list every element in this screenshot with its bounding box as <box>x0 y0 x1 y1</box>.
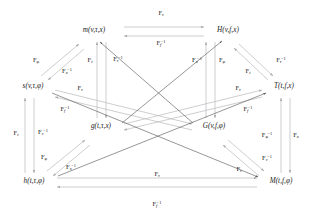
edge-label-upper-right-tau: Fτ−1 <box>276 57 285 65</box>
diagram-node-m: m(v,τ,x) <box>83 27 105 34</box>
diagram-node-T: T(t,f,x) <box>274 83 294 90</box>
edge-label-left-vert-v: Fv−1 <box>38 129 48 137</box>
diagram-arrow <box>41 44 79 76</box>
edge-label-mid-right-tau: Fτ <box>235 85 240 93</box>
diagram-arrow <box>234 48 268 80</box>
edge-label-vert-ml-t: Ft <box>88 57 93 65</box>
edge-label-lower-right-t: Ft <box>237 166 242 174</box>
edge-label-upper-left-phi: Fφ <box>33 57 39 65</box>
diagram-arrow <box>228 140 264 171</box>
diagram-edge-m-H <box>124 27 204 36</box>
diagram-edge-s-G <box>55 90 192 130</box>
diagram-edge-g-T <box>124 90 262 130</box>
edge-label-lower-left-phi: Fφ <box>41 154 47 162</box>
edge-label-vert-mr-x: Fx−1 <box>192 57 202 65</box>
edge-label-right-vert-x: Fx <box>293 132 299 140</box>
edge-label-left-vert-t: Ft <box>14 130 19 138</box>
edge-label-upper-left-x: Fx−1 <box>62 68 72 76</box>
edge-label-lower-left-x: Fx−1 <box>66 164 76 172</box>
diagram-node-h: h(t,τ,φ) <box>24 178 45 185</box>
diagram-arrow <box>124 90 262 124</box>
diagram-node-g: g(t,τ,x) <box>91 123 111 130</box>
edge-label-top-fwd: Fτ <box>158 10 163 18</box>
edge-label-mid-right-f: Ff−1 <box>243 106 252 114</box>
edge-label-mid-left-tau: Fτ <box>77 85 82 93</box>
diagram-edge-g-H <box>122 41 222 123</box>
edge-label-vert-ml-tau: Fτ−1 <box>113 56 122 64</box>
diagram-node-G: G(v,f,φ) <box>203 123 226 130</box>
diagram-arrow <box>239 44 273 76</box>
diagram-edge-G-M <box>223 140 264 176</box>
diagram-arrow <box>55 97 192 130</box>
diagram-node-s: s(v,τ,φ) <box>23 83 44 90</box>
diagram-node-H: H(v,f,x) <box>217 27 239 34</box>
edge-label-lower-right-v: Fv−1 <box>262 155 272 163</box>
edge-label-bottom-fwd: Fτ <box>154 171 159 179</box>
edge-label-top-inv: Ff−1 <box>156 40 165 48</box>
edge-label-right-vert-phi: Fφ−1 <box>262 132 272 140</box>
diagram-edges-layer <box>0 0 314 217</box>
diagram-edge-h-M <box>57 178 257 187</box>
diagram-edge-H-T <box>234 44 273 80</box>
edge-label-vert-mr-phi: Fφ <box>219 57 225 65</box>
fourier-transform-diagram: m(v,τ,x)H(v,f,x)s(v,τ,φ)T(t,f,x)g(t,τ,x)… <box>0 0 314 217</box>
edge-label-bottom-inv: Ff−1 <box>152 201 161 209</box>
edge-label-upper-right-t: Ft <box>246 68 251 76</box>
diagram-arrow <box>122 41 222 123</box>
diagram-arrow <box>124 97 262 130</box>
edge-label-mid-left-f: Ff−1 <box>60 106 69 114</box>
diagram-node-M: M(t,f,φ) <box>270 178 293 185</box>
